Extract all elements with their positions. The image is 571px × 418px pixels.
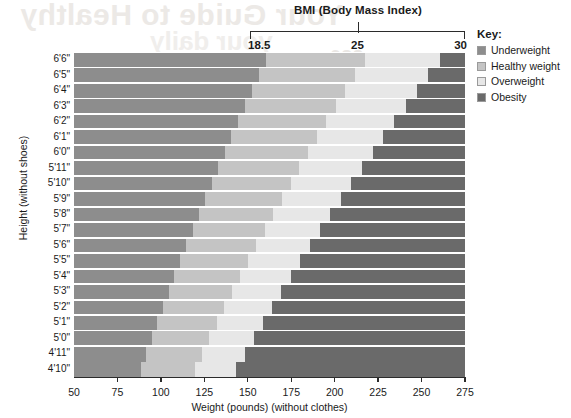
bmi-band-segment (74, 191, 205, 206)
legend-title: Key: (477, 28, 571, 40)
bmi-band-segment (74, 160, 218, 175)
bmi-band-segment (218, 160, 299, 175)
bmi-band-segment (341, 191, 465, 206)
bmi-band-segment (317, 129, 383, 144)
bmi-band-segment (256, 238, 310, 253)
bmi-band-segment (163, 300, 225, 315)
bmi-band-segment (74, 207, 199, 222)
height-tick-label: 6'1" (4, 132, 70, 142)
bmi-band-segment (74, 83, 252, 98)
bmi-band-segment (74, 315, 157, 330)
bmi-band-segment (74, 300, 163, 315)
bmi-band-segment (252, 83, 345, 98)
bmi-band-segment (74, 176, 212, 191)
weight-tick-mark (421, 377, 422, 382)
height-row-separator (74, 144, 465, 146)
height-tick-label: 5'5" (4, 255, 70, 265)
height-tick-label: 5'8" (4, 209, 70, 219)
chart-legend: Key: UnderweightHealthy weightOverweight… (477, 28, 571, 107)
bmi-axis-stem (358, 22, 359, 33)
legend-item: Underweight (477, 45, 571, 57)
bmi-band-segment (217, 315, 263, 330)
bmi-band-segment (74, 52, 266, 67)
height-row-separator (74, 175, 465, 177)
bmi-band-segment (74, 129, 231, 144)
bmi-band-segment (236, 362, 465, 377)
height-tick-label: 5'1" (4, 317, 70, 327)
bmi-band-segment (146, 346, 202, 361)
bmi-band-segment (225, 145, 309, 160)
bmi-band-segment (74, 222, 193, 237)
legend-item-label: Underweight (491, 45, 550, 57)
height-row-separator (74, 52, 465, 53)
bmi-band-segment (373, 145, 465, 160)
height-row-separator (74, 283, 465, 285)
bmi-bands-svg (74, 52, 465, 377)
bmi-band-segment (205, 191, 282, 206)
bmi-band-segment (74, 269, 174, 284)
height-tick-label: 5'10" (4, 178, 70, 188)
height-tick-label: 4'10" (4, 364, 70, 374)
legend-color-swatch (477, 77, 486, 86)
bmi-band-segment (351, 176, 465, 191)
bmi-band-segment (240, 269, 291, 284)
height-row-separator (74, 252, 465, 254)
bmi-band-segment (74, 284, 169, 299)
weight-tick-mark (160, 377, 161, 382)
height-tick-label: 6'3" (4, 101, 70, 111)
legend-item-label: Healthy weight (491, 61, 560, 73)
bmi-band-segment (417, 83, 465, 98)
weight-tick-label: 100 (152, 386, 170, 398)
height-row-separator (74, 190, 465, 192)
bmi-band-segment (406, 98, 465, 113)
weight-tick-label: 50 (68, 386, 80, 398)
height-row-separator (74, 159, 465, 161)
weight-tick-label: 150 (239, 386, 257, 398)
bmi-band-segment (440, 52, 465, 67)
bmi-band-segment (300, 253, 465, 268)
height-row-separator (74, 330, 465, 332)
bmi-tick-label: 30 (454, 39, 467, 51)
weight-tick-mark (204, 377, 205, 382)
bmi-band-segment (272, 300, 465, 315)
bmi-band-segment (232, 284, 281, 299)
bmi-band-segment (74, 98, 245, 113)
bmi-band-segment (74, 238, 186, 253)
weight-tick-label: 200 (326, 386, 344, 398)
height-axis-title: Height (without shoes) (17, 108, 29, 268)
weight-tick-label: 125 (196, 386, 214, 398)
bmi-band-segment (186, 238, 256, 253)
legend-item-label: Obesity (491, 92, 527, 104)
bmi-band-segment (281, 284, 465, 299)
weight-tick-mark (117, 377, 118, 382)
legend-item: Healthy weight (477, 61, 571, 73)
bmi-axis-title: BMI (Body Mass Index) (250, 4, 466, 16)
bmi-band-segment (180, 253, 248, 268)
bmi-band-segment (291, 176, 352, 191)
bmi-band-segment (355, 67, 429, 82)
legend-color-swatch (477, 46, 486, 55)
bmi-band-segment (74, 346, 146, 361)
height-tick-label: 5'4" (4, 271, 70, 281)
bmi-band-segment (428, 67, 465, 82)
height-row-separator (74, 314, 465, 316)
bmi-axis-bracket (250, 31, 465, 39)
bmi-band-segment (254, 331, 465, 346)
bmi-band-segment (326, 114, 394, 129)
weight-tick-label: 225 (369, 386, 387, 398)
height-row-separator (74, 268, 465, 270)
bmi-band-segment (224, 300, 271, 315)
bmi-tick-label: 18.5 (248, 39, 270, 51)
weight-tick-label: 250 (413, 386, 431, 398)
bmi-band-segment (74, 67, 259, 82)
weight-tick-mark (464, 377, 465, 382)
legend-item: Overweight (477, 76, 571, 88)
bmi-band-segment (282, 191, 341, 206)
bmi-band-segment (193, 222, 265, 237)
height-tick-label: 6'6" (4, 54, 70, 64)
height-row-separator (74, 237, 465, 239)
height-tick-label: 5'0" (4, 333, 70, 343)
weight-tick-mark (247, 377, 248, 382)
legend-color-swatch (477, 93, 486, 102)
height-tick-label: 5'2" (4, 302, 70, 312)
